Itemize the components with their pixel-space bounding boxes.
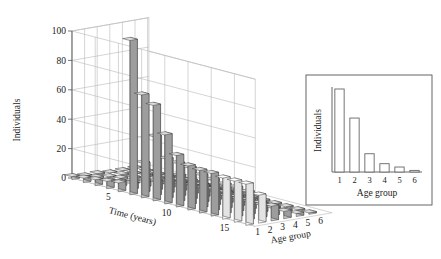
bar-face-side bbox=[211, 170, 218, 215]
y-axis-label: Individuals bbox=[12, 98, 22, 141]
inset-x-axis-label: Age group bbox=[357, 188, 398, 198]
inset-x-tick-label: 6 bbox=[412, 175, 416, 185]
inset-y-axis-label: Individuals bbox=[313, 109, 323, 152]
inset-bar bbox=[380, 164, 389, 172]
inset-x-tick-label: 2 bbox=[352, 175, 356, 185]
age-axis-tick-label: 2 bbox=[268, 225, 273, 235]
y-axis-tick-label: 100 bbox=[52, 26, 67, 36]
inset-x-tick-label: 3 bbox=[367, 175, 371, 185]
time-axis-tick-label: 10 bbox=[162, 208, 172, 218]
bar-face-side bbox=[235, 178, 242, 221]
inset-bar bbox=[410, 170, 419, 172]
time-axis-tick-label: 15 bbox=[220, 223, 230, 233]
bar-face-side bbox=[246, 181, 253, 224]
inset-bar bbox=[365, 154, 374, 172]
bar-face-side bbox=[153, 102, 160, 199]
figure-container: 020406080100Individuals51015Time (years)… bbox=[0, 0, 441, 259]
age-axis-tick-label: 1 bbox=[255, 227, 260, 237]
age-axis-tick-label: 5 bbox=[306, 218, 311, 228]
time-axis-tick-label: 5 bbox=[106, 192, 111, 202]
bar-face-side bbox=[142, 92, 149, 197]
age-axis-label: Age group bbox=[270, 228, 312, 245]
y-axis-tick-label: 60 bbox=[57, 85, 67, 95]
bar-face-side bbox=[130, 37, 137, 193]
bar-face-side bbox=[177, 152, 184, 205]
bar-face-side bbox=[259, 192, 266, 222]
inset-x-tick-label: 5 bbox=[397, 175, 401, 185]
bar-face-side bbox=[188, 163, 195, 209]
bar-face-side bbox=[200, 167, 207, 212]
inset-x-tick-label: 1 bbox=[337, 175, 341, 185]
inset-bar bbox=[395, 167, 404, 172]
inset-panel-border bbox=[306, 75, 432, 205]
y-axis-tick-label: 40 bbox=[57, 115, 67, 125]
bar-face-side bbox=[165, 132, 172, 203]
figure-canvas: 020406080100Individuals51015Time (years)… bbox=[0, 0, 441, 259]
time-axis-label: Time (years) bbox=[108, 205, 158, 228]
inset-bar bbox=[335, 89, 344, 172]
age-axis-tick-label: 6 bbox=[318, 216, 323, 226]
bar-face-side bbox=[223, 175, 230, 218]
y-axis-tick-label: 80 bbox=[57, 56, 67, 66]
y-axis-tick-label: 20 bbox=[57, 144, 67, 154]
age-axis-tick-label: 4 bbox=[293, 220, 298, 230]
inset-bar bbox=[350, 118, 359, 172]
age-axis-tick-label: 3 bbox=[280, 222, 285, 232]
